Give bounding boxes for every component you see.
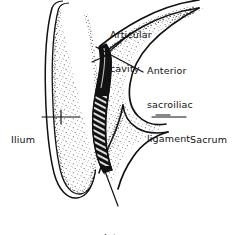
anatomy-figure: Articular cavity Anterior sacroiliac lig… (0, 0, 238, 235)
label-ilium: Ilium (11, 111, 35, 168)
label-articular-cavity: Articular cavity (110, 6, 152, 97)
ilium-bone (45, 1, 99, 198)
label-ilium-line1: Ilium (11, 134, 35, 145)
label-sacrum: Sacrum (190, 111, 227, 168)
label-articular-cavity-line2: cavity (110, 63, 152, 74)
label-interosseous-ligaments-line1: Interosseous (104, 232, 166, 235)
label-anterior-sacroiliac-ligament-line1: Anterior (147, 65, 193, 76)
label-anterior-sacroiliac-ligament: Anterior sacroiliac ligament (147, 42, 193, 167)
label-anterior-sacroiliac-ligament-line2: sacroiliac (147, 99, 193, 110)
label-anterior-sacroiliac-ligament-line3: ligament (147, 133, 193, 144)
label-articular-cavity-line1: Articular (110, 29, 152, 40)
label-interosseous-ligaments: Interosseous ligaments (104, 209, 166, 235)
label-sacrum-line1: Sacrum (190, 134, 227, 145)
